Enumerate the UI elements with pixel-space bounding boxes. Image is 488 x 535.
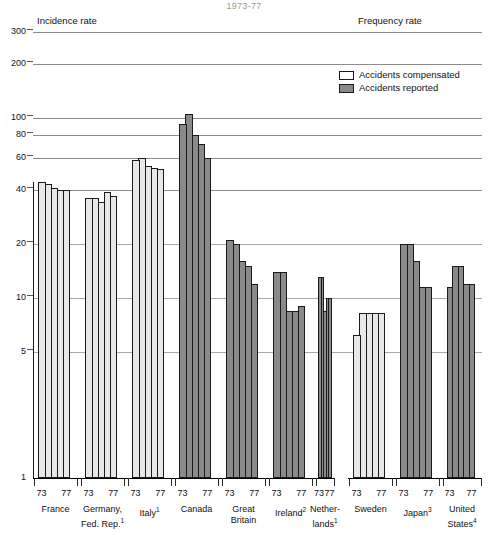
- bar-step-ireland-73: [273, 272, 280, 478]
- x-tick-netherlands-end: [334, 478, 335, 486]
- legend-item-compensated: Accidents compensated: [339, 69, 460, 81]
- x-tick-canada-start: [175, 478, 176, 486]
- x-year-end-netherlands: 77: [317, 488, 341, 498]
- footnote-marker-italy: 1: [156, 506, 160, 513]
- x-country-label-line2-netherlands: lands1: [302, 515, 348, 530]
- x-tick-netherlands-start: [316, 478, 317, 486]
- x-year-start-ireland: 73: [264, 488, 288, 498]
- legend-item-reported: Accidents reported: [339, 82, 460, 94]
- x-tick-sweden-end: [392, 478, 393, 486]
- bar-step-netherlands-73: [318, 277, 322, 478]
- x-tick-great-britain-end: [265, 478, 266, 486]
- legend-swatch-reported: [339, 84, 354, 93]
- chart-root: 1973-77 Incidence rate Frequency rate 30…: [0, 0, 488, 535]
- x-country-label-line1-united-states: United: [429, 504, 488, 515]
- x-year-end-united-states: 77: [459, 488, 483, 498]
- bar-step-france-73: [38, 182, 45, 478]
- x-year-start-united-states: 73: [438, 488, 462, 498]
- x-tick-ireland-start: [269, 478, 270, 486]
- x-tick-japan-end: [439, 478, 440, 486]
- bar-step-germany-73: [85, 198, 92, 478]
- x-year-end-great-britain: 77: [242, 488, 266, 498]
- footnote-marker-united-states: 4: [473, 517, 477, 524]
- bar-step-italy-73: [132, 160, 139, 478]
- legend: Accidents compensated Accidents reported: [339, 69, 460, 95]
- x-year-start-canada: 73: [170, 488, 194, 498]
- x-tick-united-states-start: [443, 478, 444, 486]
- x-tick-great-britain-start: [222, 478, 223, 486]
- x-tick-france-end: [77, 478, 78, 486]
- x-tick-canada-end: [218, 478, 219, 486]
- x-year-end-france: 77: [54, 488, 78, 498]
- x-year-start-italy: 73: [123, 488, 147, 498]
- x-tick-france-start: [34, 478, 35, 486]
- x-tick-italy-end: [171, 478, 172, 486]
- legend-label-reported: Accidents reported: [359, 83, 438, 93]
- x-year-start-great-britain: 73: [217, 488, 241, 498]
- x-tick-japan-start: [396, 478, 397, 486]
- x-year-start-japan: 73: [391, 488, 415, 498]
- x-year-end-canada: 77: [195, 488, 219, 498]
- x-tick-sweden-start: [349, 478, 350, 486]
- x-year-start-france: 73: [29, 488, 53, 498]
- bar-step-japan-73: [400, 244, 407, 478]
- x-year-end-sweden: 77: [369, 488, 393, 498]
- x-tick-germany-end: [124, 478, 125, 486]
- x-year-start-germany: 73: [76, 488, 100, 498]
- x-country-label-line2-united-states: States4: [429, 515, 488, 530]
- x-tick-italy-start: [128, 478, 129, 486]
- footnote-marker-netherlands: 1: [334, 517, 338, 524]
- x-tick-united-states-end: [481, 478, 482, 486]
- bar-step-canada-73: [179, 124, 186, 478]
- x-year-end-germany: 77: [101, 488, 125, 498]
- legend-label-compensated: Accidents compensated: [359, 70, 460, 80]
- x-tick-germany-start: [81, 478, 82, 486]
- legend-swatch-compensated: [339, 71, 354, 80]
- x-tick-ireland-end: [312, 478, 313, 486]
- bar-step-great-britain-73: [226, 240, 233, 478]
- x-year-end-italy: 77: [148, 488, 172, 498]
- x-country-label-united-states: UnitedStates4: [429, 504, 488, 530]
- bar-step-sweden-73: [353, 335, 360, 478]
- x-year-start-sweden: 73: [344, 488, 368, 498]
- bar-step-united-states-73: [447, 287, 454, 478]
